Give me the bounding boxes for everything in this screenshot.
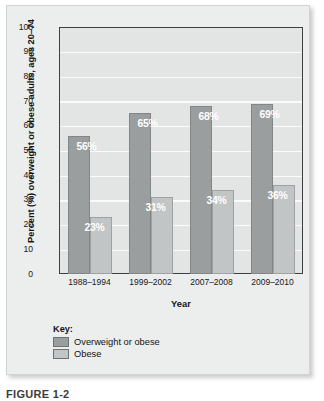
bar-value-label: 56% xyxy=(69,141,105,152)
bar-value-label: 68% xyxy=(191,111,227,122)
legend-title: Key: xyxy=(53,324,160,334)
bar-group: 69%36% xyxy=(251,27,295,274)
bar[interactable]: 36% xyxy=(273,185,295,274)
y-axis-tick-label: 10 xyxy=(7,244,33,254)
bar-value-label: 69% xyxy=(252,109,288,120)
bar-group: 65%31% xyxy=(129,27,173,274)
legend-entries: Overweight or obeseObese xyxy=(53,337,160,359)
bar[interactable]: 23% xyxy=(90,217,112,274)
x-axis-tick-label: 1988–1994 xyxy=(59,277,120,287)
bar[interactable]: 68% xyxy=(190,106,212,274)
bar-value-label: 31% xyxy=(138,202,174,213)
bar-value-label: 34% xyxy=(199,195,235,206)
x-axis-tick-label: 2009–2010 xyxy=(242,277,303,287)
x-axis-title: Year xyxy=(59,298,303,309)
figure-card: Percent (%) overweight or obese adults, … xyxy=(6,5,310,375)
y-axis-tick-label: 40 xyxy=(7,170,33,180)
x-axis-tick-labels: 1988–19941999–20022007–20082009–2010 xyxy=(59,277,303,293)
legend-swatch xyxy=(53,349,69,359)
x-axis-tick-label: 1999–2002 xyxy=(120,277,181,287)
y-axis-tick-label: 30 xyxy=(7,194,33,204)
legend-label: Overweight or obese xyxy=(74,337,160,347)
chart-legend: Key: Overweight or obeseObese xyxy=(53,324,160,359)
y-axis-tick-label: 0 xyxy=(7,269,33,279)
bar-group: 68%34% xyxy=(190,27,234,274)
legend-entry[interactable]: Overweight or obese xyxy=(53,337,160,347)
bars-layer: 56%23%65%31%68%34%69%36% xyxy=(59,27,303,274)
y-axis-tick-label: 80 xyxy=(7,71,33,81)
bar[interactable]: 34% xyxy=(212,190,234,274)
legend-label: Obese xyxy=(74,349,101,359)
bar-group: 56%23% xyxy=(68,27,112,274)
y-axis-tick-label: 70 xyxy=(7,96,33,106)
legend-swatch xyxy=(53,337,69,347)
y-axis-tick-label: 100 xyxy=(7,22,33,32)
bar[interactable]: 69% xyxy=(251,104,273,274)
legend-entry[interactable]: Obese xyxy=(53,349,160,359)
y-axis-tick-label: 90 xyxy=(7,46,33,56)
bar-value-label: 36% xyxy=(260,190,296,201)
bar-value-label: 65% xyxy=(130,118,166,129)
figure-container: Percent (%) overweight or obese adults, … xyxy=(0,0,324,401)
bar[interactable]: 31% xyxy=(151,197,173,274)
figure-caption: FIGURE 1-2 xyxy=(6,388,70,401)
y-axis-tick-label: 50 xyxy=(7,145,33,155)
bar-value-label: 23% xyxy=(77,222,113,233)
y-axis-tick-label: 20 xyxy=(7,219,33,229)
x-axis-tick-label: 2007–2008 xyxy=(181,277,242,287)
y-axis-tick-label: 60 xyxy=(7,120,33,130)
bar[interactable]: 56% xyxy=(68,136,90,274)
bar[interactable]: 65% xyxy=(129,113,151,274)
